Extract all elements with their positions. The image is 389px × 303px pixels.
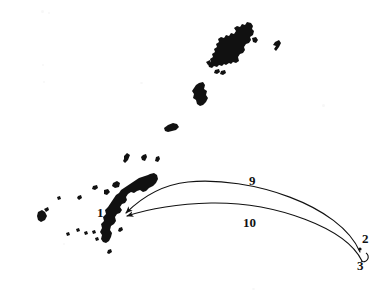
route-arc-10[interactable]: [127, 203, 362, 261]
island-yoron-jima: [141, 154, 147, 161]
island-amami-oshima: [206, 22, 258, 75]
island-kume-jima: [37, 207, 49, 222]
island-tokunoshima: [192, 82, 208, 106]
map-label-route-10: 10: [243, 216, 256, 229]
island-okinoerabu-jima: [164, 123, 179, 132]
island-kerama-islets: [57, 195, 96, 236]
map-label-route-9: 9: [249, 174, 256, 187]
island-kikai-jima: [273, 40, 281, 51]
map-label-point-2: 2: [362, 232, 369, 245]
map-canvas: [0, 0, 389, 303]
marker-dot-2: [358, 247, 361, 250]
map-label-point-3: 3: [357, 259, 364, 272]
map-figure: 1 2 3 9 10: [0, 0, 389, 303]
map-label-point-1: 1: [97, 206, 104, 219]
